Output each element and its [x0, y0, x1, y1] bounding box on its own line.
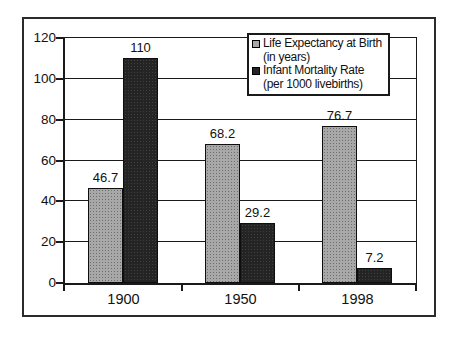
y-tick-mark	[56, 37, 63, 39]
legend-marker-icon	[252, 40, 260, 48]
x-tick-mark	[63, 285, 65, 291]
bar-1998-series-1	[357, 268, 392, 283]
y-tick-label: 100	[18, 71, 56, 87]
y-tick-label: 20	[18, 234, 56, 250]
x-tick-mark	[181, 285, 183, 291]
y-tick-mark	[56, 119, 63, 121]
y-tick-label: 0	[18, 275, 56, 291]
bar-value-label: 7.2	[343, 250, 407, 265]
bar-value-label: 110	[109, 40, 173, 55]
gridline-60	[65, 160, 416, 161]
x-category-label: 1950	[224, 291, 256, 308]
y-tick-label: 60	[18, 153, 56, 169]
y-tick-label: 40	[18, 193, 56, 209]
y-tick-mark	[56, 200, 63, 202]
y-tick-label: 80	[18, 112, 56, 128]
legend-label-line: (in years)	[263, 51, 382, 65]
legend-label-line: Infant Mortality Rate	[263, 64, 364, 78]
legend-item-1: Infant Mortality Rate(per 1000 livebirth…	[252, 64, 385, 91]
legend-label: Life Expectancy at Birth(in years)	[263, 37, 382, 64]
bar-value-label: 68.2	[191, 126, 255, 141]
x-category-label: 1998	[341, 291, 373, 308]
legend-label: Infant Mortality Rate(per 1000 livebirth…	[263, 64, 364, 91]
y-tick-mark	[56, 282, 63, 284]
legend-item-0: Life Expectancy at Birth(in years)	[252, 37, 385, 64]
bar-value-label: 29.2	[226, 205, 290, 220]
legend-label-line: Life Expectancy at Birth	[263, 37, 382, 51]
legend-label-line: (per 1000 livebirths)	[263, 78, 364, 92]
y-tick-label: 120	[18, 30, 56, 46]
bar-value-label: 76.7	[308, 108, 372, 123]
legend-marker-icon	[252, 67, 260, 75]
bar-1900-series-0	[88, 188, 123, 283]
bar-1900-series-1	[123, 58, 158, 283]
bar-1950-series-1	[240, 223, 275, 283]
y-tick-mark	[56, 241, 63, 243]
y-tick-mark	[56, 160, 63, 162]
x-category-label: 1900	[107, 291, 139, 308]
legend: Life Expectancy at Birth(in years)Infant…	[247, 33, 390, 96]
chart-figure: 46.711068.229.276.77.2 020406080100120 1…	[0, 0, 456, 337]
x-tick-mark	[298, 285, 300, 291]
y-tick-mark	[56, 78, 63, 80]
x-tick-mark	[415, 285, 417, 291]
